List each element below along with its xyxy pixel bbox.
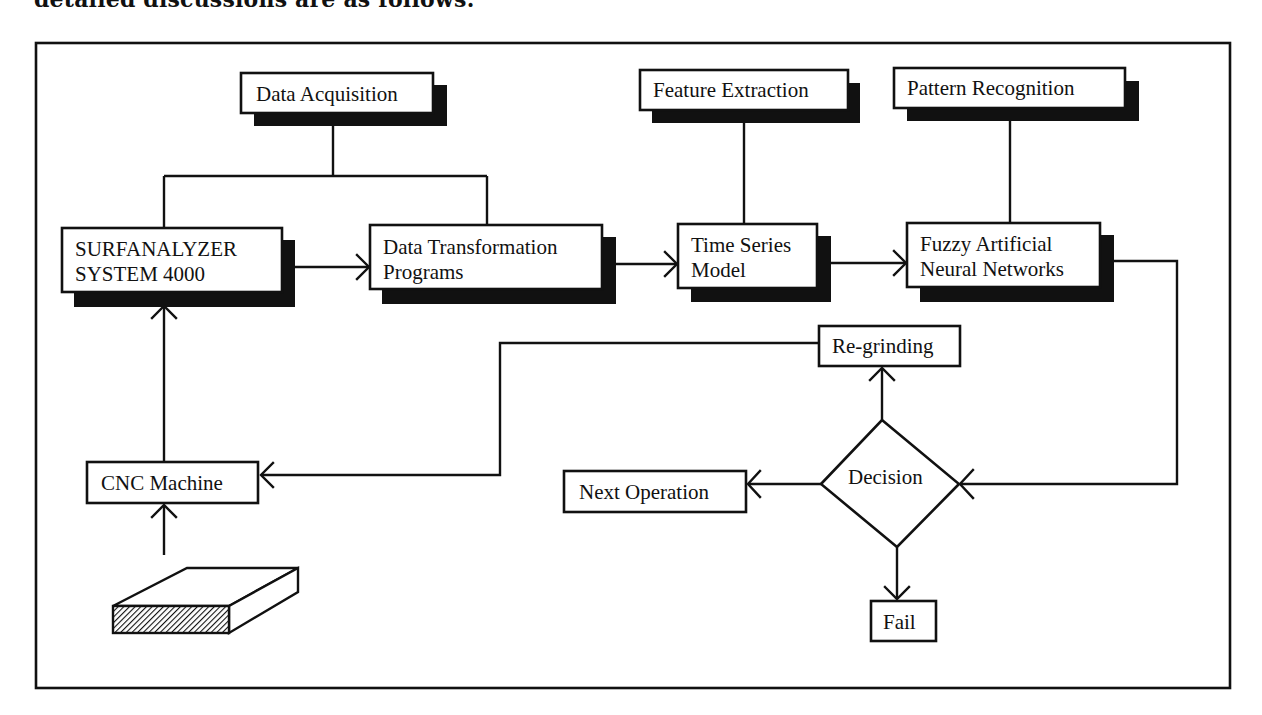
node-cnc-machine: CNC Machine — [87, 462, 258, 503]
fuzzy-ann-line1: Fuzzy Artificial — [920, 232, 1053, 256]
surfanalyzer-line1: SURFANALYZER — [75, 237, 237, 261]
node-data-transformation: Data Transformation Programs — [370, 225, 616, 304]
node-pattern-recognition: Pattern Recognition — [894, 68, 1139, 121]
connectors — [152, 121, 1177, 599]
data-acquisition-label: Data Acquisition — [256, 82, 398, 106]
surfanalyzer-line2: SYSTEM 4000 — [75, 262, 205, 286]
pattern-recognition-label: Pattern Recognition — [907, 76, 1075, 100]
node-surfanalyzer: SURFANALYZER SYSTEM 4000 — [62, 228, 295, 307]
node-next-operation: Next Operation — [564, 471, 746, 512]
workpiece-block-icon — [113, 568, 298, 633]
next-operation-label: Next Operation — [579, 480, 710, 504]
time-series-line1: Time Series — [691, 233, 791, 257]
cnc-machine-label: CNC Machine — [101, 471, 223, 495]
data-transformation-line2: Programs — [383, 260, 464, 284]
data-transformation-line1: Data Transformation — [383, 235, 558, 259]
node-data-acquisition: Data Acquisition — [241, 73, 447, 126]
fuzzy-ann-line2: Neural Networks — [920, 257, 1064, 281]
node-time-series: Time Series Model — [678, 224, 831, 302]
node-feature-extraction: Feature Extraction — [640, 70, 860, 123]
flowchart-diagram: Data Acquisition Feature Extraction Patt… — [0, 0, 1262, 715]
feature-extraction-label: Feature Extraction — [653, 78, 809, 102]
decision-label: Decision — [848, 465, 923, 489]
node-decision: Decision — [821, 420, 959, 547]
node-re-grinding: Re-grinding — [819, 326, 960, 366]
fail-label: Fail — [883, 610, 916, 634]
node-fail: Fail — [871, 601, 936, 641]
time-series-line2: Model — [691, 258, 746, 282]
re-grinding-label: Re-grinding — [832, 334, 934, 358]
node-fuzzy-ann: Fuzzy Artificial Neural Networks — [907, 223, 1114, 302]
